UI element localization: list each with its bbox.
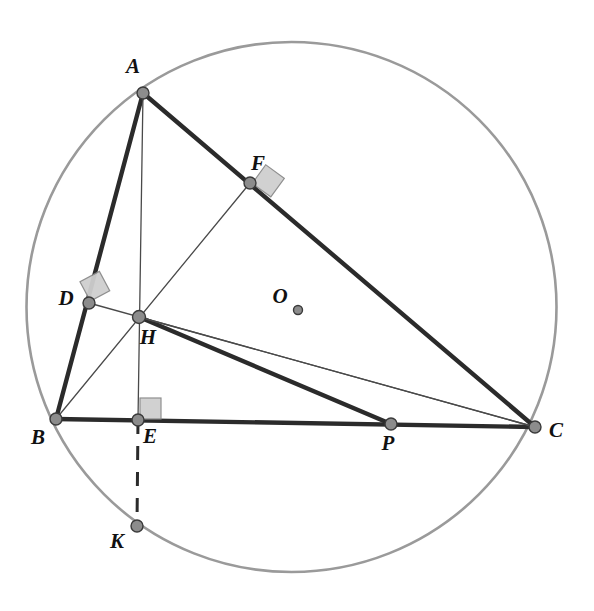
segment-ae [138, 93, 143, 420]
vertex-label-d: D [57, 286, 73, 310]
right-angle-marker-layer [80, 165, 284, 419]
vertex-marker-layer [50, 87, 541, 532]
vertex-dot-c [529, 421, 541, 433]
vertex-dot-a [137, 87, 149, 99]
vertex-label-b: B [30, 425, 45, 449]
circumcircle-layer [27, 42, 557, 572]
vertex-label-p: P [381, 431, 395, 455]
right-angle-at-D [80, 271, 110, 301]
vertex-label-e: E [142, 424, 157, 448]
right-angle-square [80, 271, 110, 301]
vertex-label-h: H [139, 325, 157, 349]
vertex-dot-d [83, 297, 95, 309]
vertex-label-a: A [124, 54, 140, 78]
vertex-label-f: F [250, 151, 265, 175]
vertex-dot-k [131, 520, 143, 532]
geometry-figure: ABCDEFHPKO [0, 0, 594, 611]
vertex-label-o: O [272, 284, 287, 308]
segment-ac [143, 93, 535, 427]
segment-bc [56, 419, 535, 427]
segment-ab [56, 93, 143, 419]
vertex-dot-b [50, 413, 62, 425]
segment-hc [139, 317, 535, 427]
vertex-label-layer: ABCDEFHPKO [30, 54, 564, 553]
circumcircle [27, 42, 557, 572]
segment-ek [137, 420, 138, 526]
segment-hp [139, 317, 391, 424]
vertex-dot-h [133, 311, 146, 324]
vertex-label-c: C [549, 418, 564, 442]
vertex-dot-p [385, 418, 397, 430]
vertex-dot-f [244, 177, 256, 189]
geometry-canvas: ABCDEFHPKO [0, 0, 594, 611]
vertex-label-k: K [109, 529, 126, 553]
vertex-dot-o [294, 306, 303, 315]
